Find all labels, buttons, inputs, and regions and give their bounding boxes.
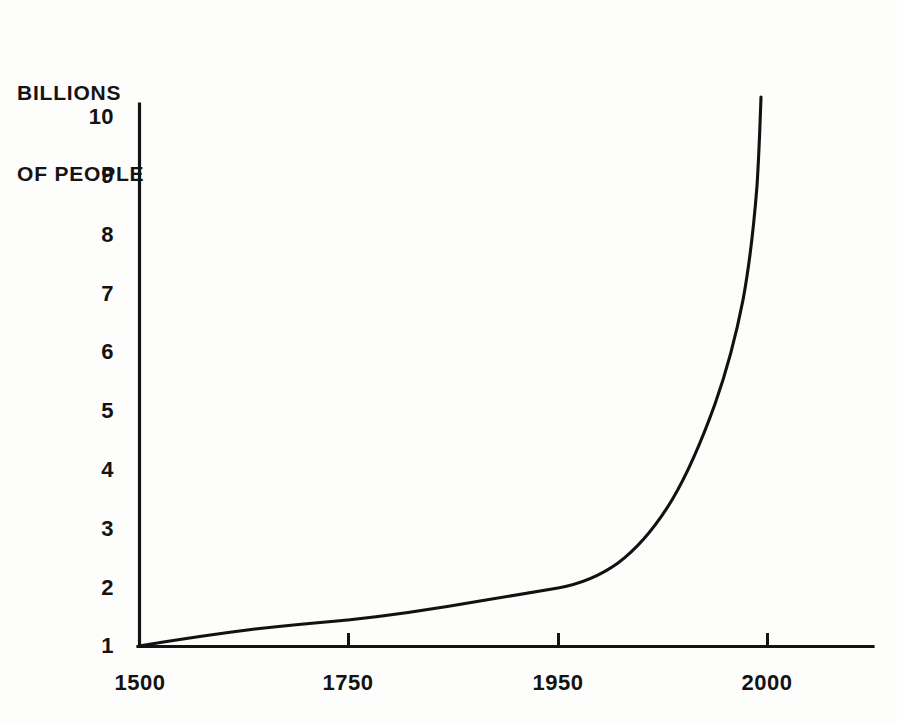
plot-area — [0, 0, 897, 724]
y-tick-label-3: 3 — [72, 516, 114, 542]
population-curve — [139, 97, 761, 646]
y-tick-label-9: 9 — [72, 163, 114, 189]
y-tick-label-10: 10 — [72, 104, 114, 130]
x-tick-label-2000: 2000 — [712, 670, 822, 696]
y-tick-label-8: 8 — [72, 222, 114, 248]
y-tick-label-2: 2 — [72, 575, 114, 601]
x-tick-label-1950: 1950 — [503, 670, 613, 696]
chart-figure: BILLIONS OF PEOPLE 10 9 8 7 6 5 4 3 2 1 … — [0, 0, 897, 724]
y-tick-label-6: 6 — [72, 339, 114, 365]
y-tick-label-5: 5 — [72, 398, 114, 424]
y-tick-label-1: 1 — [72, 633, 114, 659]
x-tick-label-1750: 1750 — [293, 670, 403, 696]
y-tick-label-4: 4 — [72, 457, 114, 483]
x-tick-label-1500: 1500 — [85, 670, 195, 696]
y-tick-label-7: 7 — [72, 281, 114, 307]
